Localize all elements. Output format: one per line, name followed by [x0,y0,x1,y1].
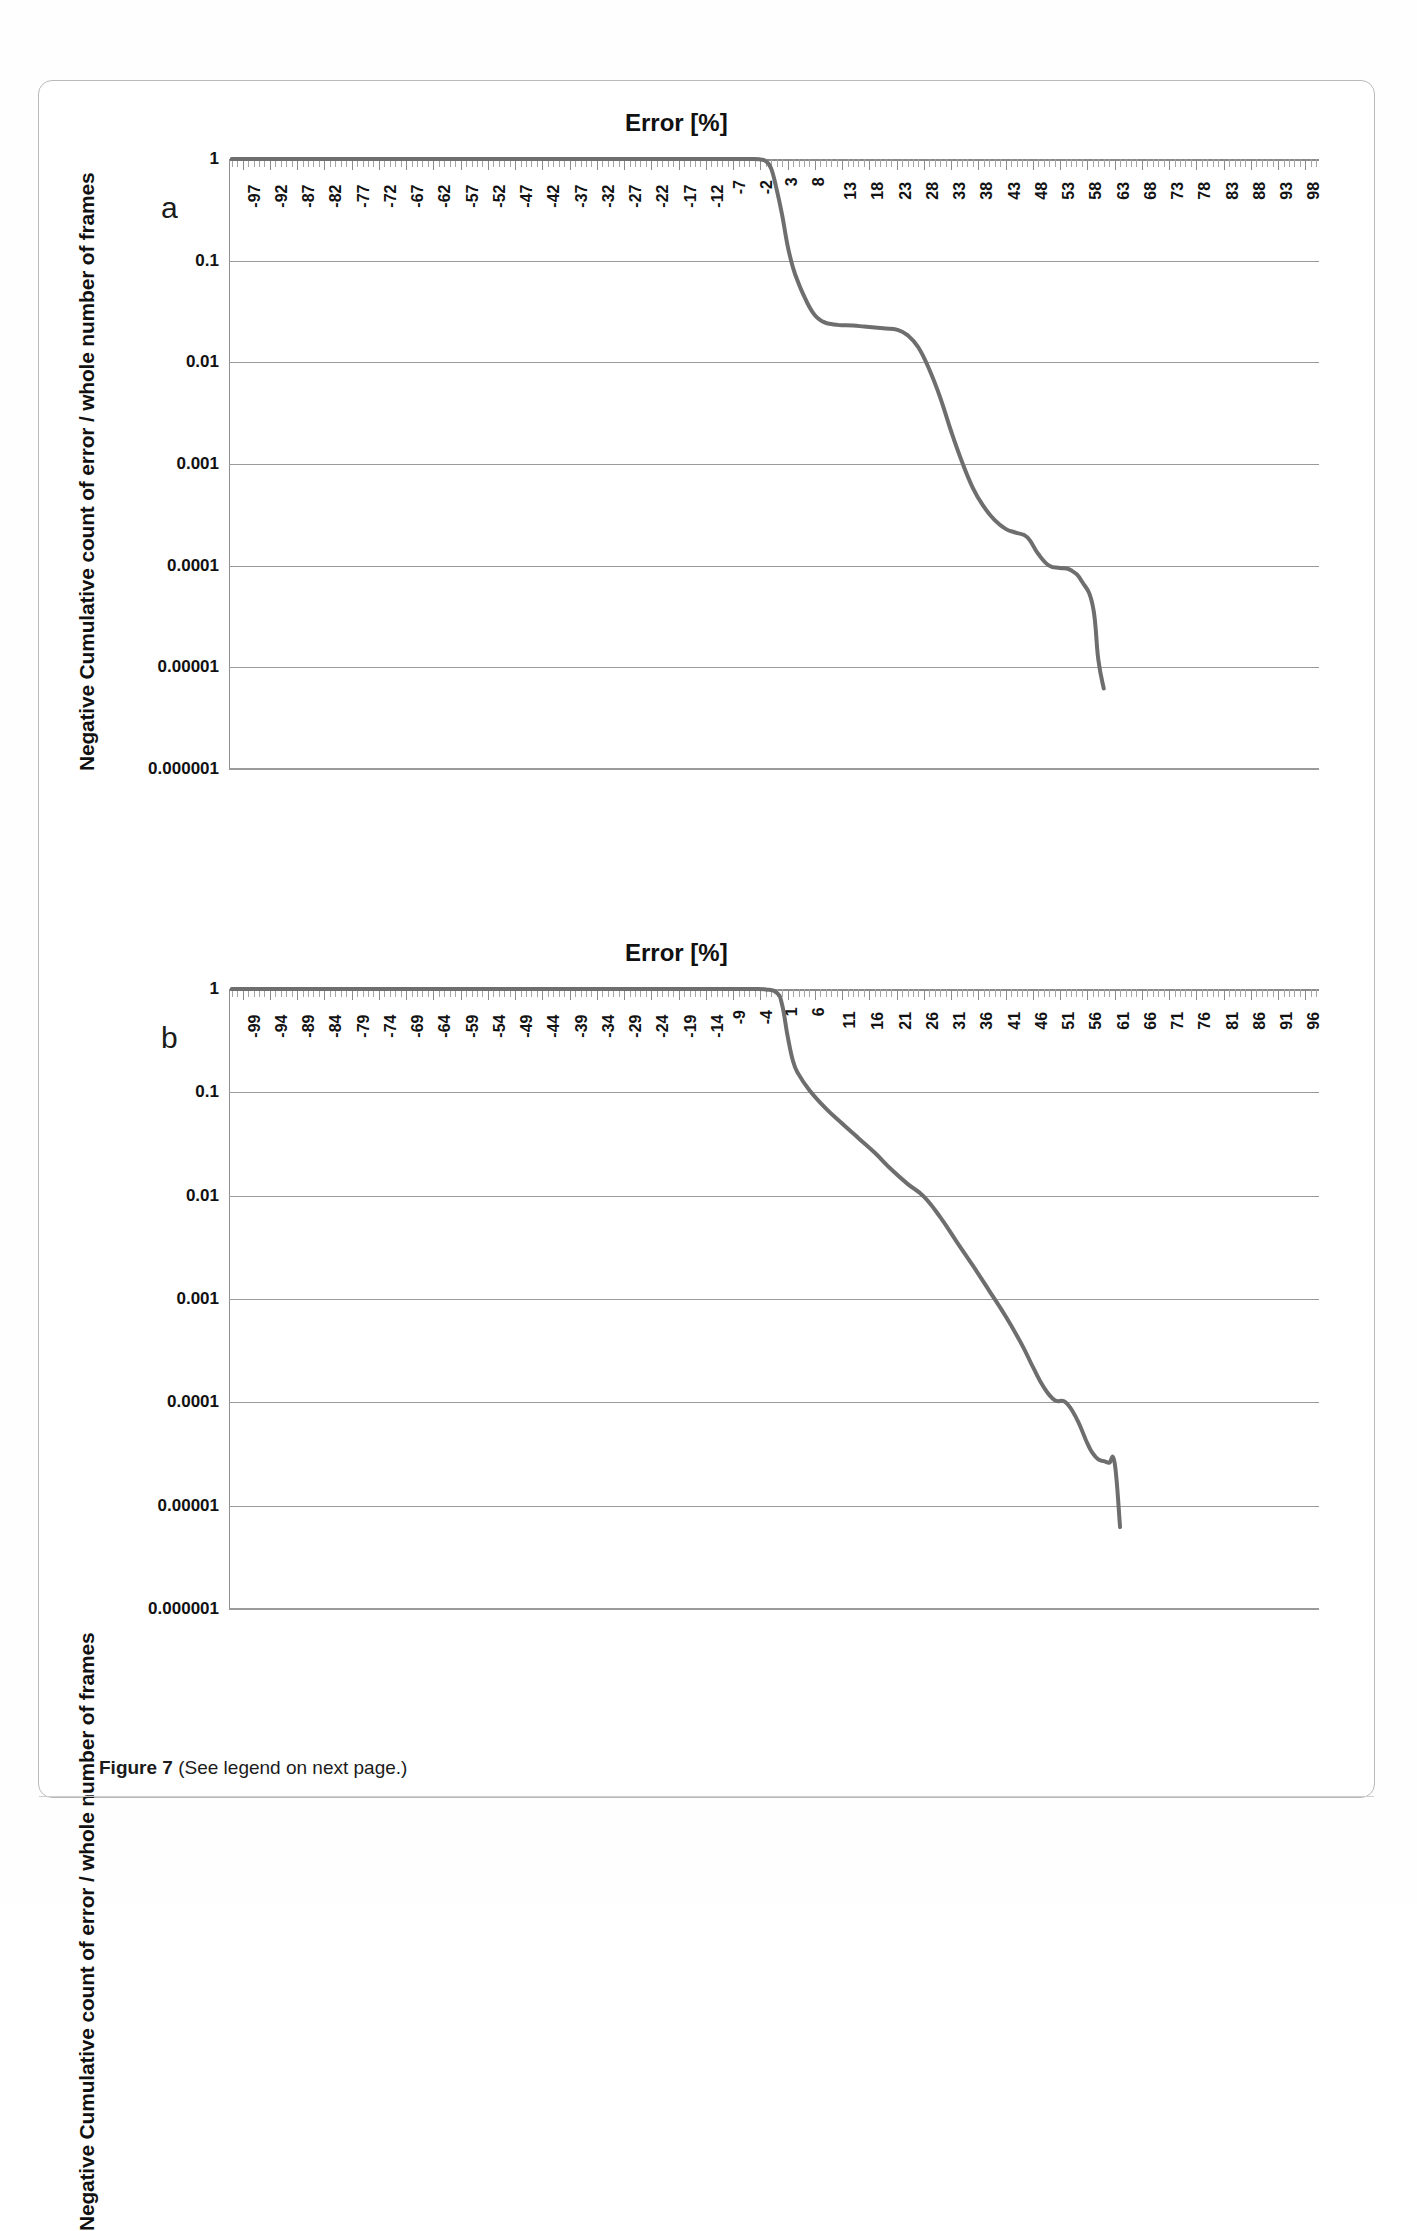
panel-b-y-tick-label: 0.00001 [158,1496,219,1516]
panel-b-y-axis-title: Negative Cumulative count of error / who… [75,1633,99,2231]
panel-b-curve [229,989,1319,1609]
panel-a-y-tick-label: 0.00001 [158,657,219,677]
panel-a-plot-area: 10.10.010.0010.00010.000010.000001-97-92… [229,159,1319,769]
panel-b-y-tick-label: 0.1 [195,1082,219,1102]
panel-a: Negative Cumulative count of error / who… [39,81,1376,911]
figure-caption: Figure 7 (See legend on next page.) [99,1757,407,1779]
panel-a-axis-bottom [229,768,1319,769]
panel-b-y-tick-label: 0.01 [186,1186,219,1206]
panel-b-chart-title: Error [%] [625,939,728,967]
figure-caption-text: (See legend on next page.) [173,1757,408,1778]
panel-a-letter: a [161,191,178,225]
panel-a-y-tick-label: 1 [210,149,219,169]
panel-b-axis-bottom [229,1608,1319,1609]
panel-b-curve-path [232,989,1120,1527]
panel-a-y-tick-label: 0.001 [176,454,219,474]
panel-a-y-tick-label: 0.0001 [167,556,219,576]
panel-a-gridline [229,769,1319,770]
panel-b-gridline [229,1609,1319,1610]
panel-b-y-tick-label: 1 [210,979,219,999]
panel-b-y-tick-label: 0.001 [176,1289,219,1309]
panel-b-letter: b [161,1021,178,1055]
panel-a-y-tick-label: 0.01 [186,352,219,372]
panel-b-y-tick-label: 0.0001 [167,1392,219,1412]
panel-b: Negative Cumulative count of error / who… [39,911,1376,1799]
caption-divider [39,1796,1374,1797]
panel-a-y-axis-title: Negative Cumulative count of error / who… [75,173,99,771]
panel-a-curve-path [232,159,1104,688]
panel-a-y-tick-label: 0.1 [195,251,219,271]
panel-b-plot-inner: 10.10.010.0010.00010.000010.000001-99-94… [229,989,1319,1609]
panel-b-plot-area: 10.10.010.0010.00010.000010.000001-99-94… [229,989,1319,1609]
panel-a-plot-inner: 10.10.010.0010.00010.000010.000001-97-92… [229,159,1319,769]
panel-a-y-tick-label: 0.000001 [148,759,219,779]
panel-b-y-tick-label: 0.000001 [148,1599,219,1619]
figure-caption-label: Figure 7 [99,1757,173,1778]
panel-a-chart-title: Error [%] [625,109,728,137]
page-frame: Negative Cumulative count of error / who… [38,80,1375,1798]
panel-a-curve [229,159,1319,769]
